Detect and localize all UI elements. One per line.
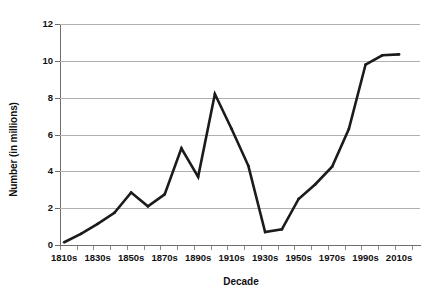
x-tick-label: 1910s <box>218 252 244 263</box>
x-tick-label: 1970s <box>319 252 345 263</box>
x-tick-mark <box>278 246 279 250</box>
x-tick-mark <box>144 246 145 250</box>
x-tick-mark <box>412 246 413 250</box>
x-tick-mark <box>211 246 212 250</box>
x-tick-mark <box>378 246 379 250</box>
data-point <box>130 191 133 194</box>
data-point <box>398 53 401 56</box>
data-point <box>180 147 183 150</box>
data-point <box>381 54 384 57</box>
line-chart: Number (in millions) 024681012 1810s1830… <box>0 0 443 299</box>
x-tick-label: 1850s <box>118 252 144 263</box>
data-point <box>314 183 317 186</box>
x-tick-label: 1890s <box>185 252 211 263</box>
y-tick-label: 10 <box>27 55 53 66</box>
x-tick-label: 2010s <box>386 252 412 263</box>
data-point <box>364 63 367 66</box>
x-tick-mark <box>160 246 161 250</box>
data-series-immigration <box>60 24 420 245</box>
x-tick-mark <box>93 246 94 250</box>
data-point <box>197 176 200 179</box>
data-point <box>214 93 217 96</box>
y-tick-label: 4 <box>27 165 53 176</box>
data-point <box>347 128 350 131</box>
x-tick-mark <box>261 246 262 250</box>
x-tick-mark <box>127 246 128 250</box>
data-point <box>113 211 116 214</box>
x-tick-mark <box>60 246 61 250</box>
y-axis-title: Number (in millions) <box>0 0 26 299</box>
x-tick-mark <box>110 246 111 250</box>
x-tick-label: 1950s <box>285 252 311 263</box>
data-point <box>230 128 233 131</box>
x-tick-label: 1870s <box>151 252 177 263</box>
x-axis-title: Decade <box>60 276 422 287</box>
x-tick-label: 1830s <box>84 252 110 263</box>
data-point <box>247 164 250 167</box>
data-point <box>96 222 99 225</box>
data-point <box>331 165 334 168</box>
x-tick-mark <box>227 246 228 250</box>
data-point <box>147 205 150 208</box>
data-point <box>163 193 166 196</box>
x-tick-mark <box>345 246 346 250</box>
y-tick-label: 0 <box>27 239 53 250</box>
x-tick-mark <box>294 246 295 250</box>
x-tick-mark <box>361 246 362 250</box>
y-tick-label: 2 <box>27 202 53 213</box>
x-tick-label: 1810s <box>51 252 77 263</box>
data-point <box>264 231 267 234</box>
x-tick-mark <box>177 246 178 250</box>
x-tick-mark <box>77 246 78 250</box>
x-tick-label: 1930s <box>252 252 278 263</box>
x-tick-mark <box>395 246 396 250</box>
data-point <box>63 241 66 244</box>
x-tick-mark <box>328 246 329 250</box>
data-point <box>80 233 83 236</box>
x-tick-mark <box>311 246 312 250</box>
x-tick-mark <box>194 246 195 250</box>
y-tick-label: 12 <box>27 18 53 29</box>
data-point <box>281 228 284 231</box>
y-tick-label: 6 <box>27 129 53 140</box>
x-tick-mark <box>244 246 245 250</box>
data-point <box>297 198 300 201</box>
y-tick-label: 8 <box>27 92 53 103</box>
x-axis-line <box>60 245 421 246</box>
x-tick-label: 1990s <box>352 252 378 263</box>
